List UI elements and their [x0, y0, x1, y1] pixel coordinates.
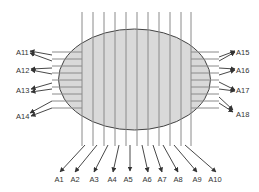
right-label-a15: A15 [236, 48, 249, 57]
bottom-label-a6: A6 [142, 175, 151, 184]
bottom-label-a7: A7 [157, 175, 166, 184]
left-arrow-icon-3 [31, 68, 52, 69]
bottom-arrow-icon-6 [142, 145, 148, 172]
left-label-a13: A13 [16, 86, 29, 95]
bottom-label-a2: A2 [70, 175, 79, 184]
bottom-arrow-icon-3 [94, 145, 108, 172]
right-arrow-icon-5 [219, 82, 235, 90]
bottom-arrow-icon-4 [113, 145, 119, 172]
left-label-a14: A14 [16, 112, 29, 121]
bottom-label-a3: A3 [89, 175, 98, 184]
bottom-label-a10: A10 [208, 175, 221, 184]
bottom-label-a1: A1 [54, 175, 63, 184]
bottom-arrow-icon-8 [163, 145, 178, 172]
right-label-a18: A18 [236, 110, 249, 119]
left-arrow-icon-5 [31, 83, 52, 89]
right-arrow-icon-4 [219, 70, 235, 75]
left-arrow-icon-7 [30, 101, 52, 113]
left-arrow-icon-8 [31, 108, 52, 116]
left-label-a11: A11 [16, 48, 29, 57]
bottom-label-a5: A5 [123, 175, 132, 184]
flow-diagram: A1A2A3A4A5A6A7A8A9A10A11A12A13A14A15A16A… [0, 0, 259, 192]
bottom-arrow-icon-10 [185, 145, 216, 172]
left-arrow-icon-4 [31, 70, 52, 74]
right-label-a17: A17 [236, 86, 249, 95]
bottom-label-a8: A8 [173, 175, 182, 184]
right-arrow-icon-3 [219, 68, 235, 69]
bottom-label-a9: A9 [192, 175, 201, 184]
left-label-a12: A12 [16, 66, 29, 75]
bottom-arrow-icon-2 [75, 145, 97, 172]
left-arrow-icon-6 [31, 89, 52, 92]
right-label-a16: A16 [236, 66, 249, 75]
bottom-label-a4: A4 [107, 175, 116, 184]
bottom-arrow-icon-7 [153, 145, 162, 172]
bottom-arrow-icon-9 [174, 145, 197, 172]
right-arrow-icon-7 [219, 97, 233, 110]
bottom-arrow-icon-1 [60, 145, 85, 172]
